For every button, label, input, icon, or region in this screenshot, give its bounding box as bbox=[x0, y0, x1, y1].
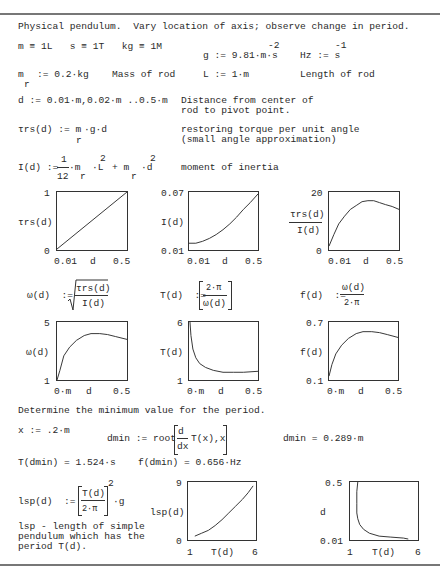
top-rule bbox=[0, 13, 440, 15]
plot3-xmin: 0.01 bbox=[328, 257, 351, 267]
plot-d-vs-period bbox=[349, 481, 419, 541]
plot3-ylabel-bar bbox=[289, 222, 322, 223]
frequency-fraction-bar bbox=[340, 294, 364, 295]
L-label: Length of rod bbox=[300, 70, 375, 80]
plot6-ymax: 0.7 bbox=[306, 319, 323, 329]
lsp-right-bracket bbox=[104, 486, 108, 516]
plot3-ylabel-denominator: I(d) bbox=[297, 226, 320, 236]
plot-frequency-vs-d bbox=[328, 321, 399, 381]
dmin-result: dmin = 0.289·m bbox=[283, 434, 364, 444]
derivative-numerator: d bbox=[178, 427, 184, 437]
plot4-ymax: 5 bbox=[44, 319, 50, 329]
dmin-lhs: dmin := root bbox=[107, 434, 176, 444]
frequency-denominator: 2·π bbox=[344, 299, 359, 308]
plot8-xlabel: T(d) bbox=[372, 548, 395, 558]
lsp-numerator: T(d) bbox=[82, 489, 105, 499]
torque-subscript: r bbox=[76, 136, 82, 146]
plot-torque-over-inertia bbox=[328, 191, 400, 251]
plot6-ylabel: f(d) bbox=[300, 348, 323, 358]
lsp-fraction-bar bbox=[81, 500, 105, 501]
inertia-fraction-bar bbox=[57, 167, 69, 168]
plot1-xlabel: d bbox=[90, 257, 96, 267]
plot2-ymax: 0.07 bbox=[161, 189, 184, 199]
mr-definition: := 0.2·kg bbox=[37, 70, 89, 80]
plot4-xmax: 0.5 bbox=[113, 387, 130, 397]
mr-symbol: m bbox=[18, 70, 24, 80]
plot-inertia-vs-d bbox=[188, 191, 259, 251]
hz-definition: Hz := s bbox=[300, 51, 340, 61]
derivative-fraction-bar bbox=[177, 438, 188, 439]
plot2-ymin: 0.01 bbox=[161, 247, 184, 257]
plot4-xlabel: d bbox=[86, 387, 92, 397]
omega-numerator: τrs(d) bbox=[76, 284, 111, 294]
inertia-L: ·L bbox=[92, 163, 104, 173]
inertia-denominator: 12 bbox=[57, 172, 69, 182]
plot6-xmin: 0·m bbox=[327, 387, 344, 397]
plot6-xmax: 0.5 bbox=[385, 387, 402, 397]
period-numerator: 2·π bbox=[206, 284, 221, 293]
lsp-denominator: 2·π bbox=[82, 505, 97, 514]
plot8-ylabel: d bbox=[320, 508, 326, 518]
plot5-ylabel: T(d) bbox=[160, 348, 183, 358]
lsp-lhs: lsp(d) := bbox=[18, 497, 76, 507]
plot3-ymin: 0 bbox=[316, 247, 322, 257]
d-range-definition: d := 0.01·m,0.02·m ..0.5·m bbox=[18, 96, 168, 106]
plot5-ymin: 1 bbox=[177, 377, 183, 387]
frequency-numerator: ω(d) bbox=[342, 283, 365, 293]
plot7-ymax: 9 bbox=[176, 479, 182, 489]
plot5-xlabel: d bbox=[218, 387, 224, 397]
x-guess-definition: x := .2·m bbox=[18, 426, 70, 436]
plot7-xmax: 6 bbox=[252, 548, 258, 558]
plot4-ymin: 1 bbox=[44, 377, 50, 387]
plot2-xmax: 0.5 bbox=[245, 257, 262, 267]
plot5-xmin: 0·m bbox=[187, 387, 204, 397]
plot8-ymin: 0.01 bbox=[320, 537, 343, 547]
lsp-note-line3: period T(d). bbox=[18, 542, 87, 552]
plot7-xlabel: T(d) bbox=[211, 548, 234, 558]
plot8-ymax: 0.5 bbox=[325, 479, 342, 489]
inertia-d: ·d bbox=[141, 163, 153, 173]
plot8-xmin: 1 bbox=[347, 548, 353, 558]
omega-fraction-bar bbox=[75, 295, 108, 296]
plot8-xmax: 6 bbox=[415, 548, 421, 558]
d-label-line2: rod to pivot point. bbox=[181, 106, 290, 116]
inertia-m1: ·m bbox=[69, 163, 81, 173]
inertia-exp2: 2 bbox=[150, 154, 156, 164]
g-definition: g := 9.81·m·s bbox=[203, 51, 278, 61]
plot1-ymin: 0 bbox=[44, 247, 50, 257]
plot2-ylabel: I(d) bbox=[161, 218, 184, 228]
plot2-xmin: 0.01 bbox=[187, 257, 210, 267]
plot3-ymax: 20 bbox=[311, 189, 323, 199]
plot6-xlabel: d bbox=[358, 387, 364, 397]
plot4-xmin: 0·m bbox=[54, 387, 71, 397]
plot5-ymax: 6 bbox=[177, 319, 183, 329]
period-at-dmin: T(dmin) = 1.524·s bbox=[18, 458, 116, 468]
g-exponent: -2 bbox=[268, 41, 280, 51]
bottom-rule bbox=[0, 564, 440, 566]
inertia-numerator: 1 bbox=[61, 155, 67, 165]
plot-period-vs-d bbox=[188, 321, 259, 381]
derivative-denominator: dx bbox=[177, 442, 189, 452]
L-definition: L := 1·m bbox=[203, 70, 249, 80]
plot1-xmax: 0.5 bbox=[113, 257, 130, 267]
lsp-times-g: ·g bbox=[113, 497, 125, 507]
plot-omega-vs-d bbox=[56, 321, 128, 381]
plot-torque-vs-d bbox=[56, 191, 128, 251]
plot7-ylabel: lsp(d) bbox=[150, 508, 185, 518]
plot2-xlabel: d bbox=[222, 257, 228, 267]
inertia-sub1: r bbox=[80, 172, 86, 182]
period-fraction-bar bbox=[203, 295, 227, 296]
inertia-sub2: r bbox=[131, 172, 137, 182]
page-title: Physical pendulum. Vary location of axis… bbox=[18, 22, 410, 32]
plot7-ymin: 0 bbox=[176, 537, 182, 547]
period-denominator: ω(d) bbox=[203, 299, 226, 309]
inertia-lhs: I(d) := bbox=[18, 163, 58, 173]
inertia-plus-m: + m bbox=[112, 163, 129, 173]
plot5-xmax: 0.5 bbox=[245, 387, 262, 397]
minimum-heading: Determine the minimum value for the peri… bbox=[18, 406, 266, 416]
lsp-exponent: 2 bbox=[108, 479, 114, 489]
hz-exponent: -1 bbox=[335, 41, 347, 51]
plot1-xmin: 0.01 bbox=[54, 257, 77, 267]
inertia-exp1: 2 bbox=[100, 154, 106, 164]
plot1-ylabel: τrs(d) bbox=[18, 218, 53, 228]
